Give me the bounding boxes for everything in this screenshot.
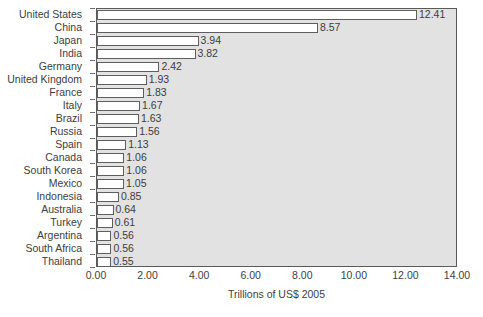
- category-label: Argentina: [37, 229, 82, 241]
- category-tick: [90, 189, 95, 190]
- category-tick: [90, 202, 95, 203]
- category-label: Mexico: [49, 177, 82, 189]
- value-tick-label: 8.00: [292, 269, 312, 281]
- category-label: Russia: [50, 125, 82, 137]
- value-tick-label: 10.00: [341, 269, 367, 281]
- bar-value-label: 1.13: [128, 139, 148, 150]
- category-label: United States: [19, 8, 82, 20]
- category-tick: [90, 228, 95, 229]
- category-tick: [90, 86, 95, 87]
- bar-value-label: 0.56: [113, 243, 133, 254]
- bar: [97, 257, 111, 267]
- bar-value-label: 12.41: [419, 9, 445, 20]
- category-tick: [90, 73, 95, 74]
- bar: [97, 127, 137, 137]
- category-label: Canada: [45, 151, 82, 163]
- value-tick-label: 0.00: [86, 269, 106, 281]
- category-label: Thailand: [42, 255, 82, 267]
- bar-value-label: 3.94: [201, 35, 221, 46]
- category-tick: [90, 34, 95, 35]
- value-tick-label: 12.00: [392, 269, 418, 281]
- category-tick: [90, 112, 95, 113]
- bar-value-label: 2.42: [161, 61, 181, 72]
- value-tick-label: 2.00: [137, 269, 157, 281]
- category-label: Indonesia: [36, 190, 82, 202]
- bar: [97, 140, 126, 150]
- category-label: Germany: [39, 60, 82, 72]
- category-label: Brazil: [56, 112, 82, 124]
- category-label: Italy: [63, 99, 82, 111]
- category-label: Japan: [53, 34, 82, 46]
- category-tick: [90, 163, 95, 164]
- category-tick: [90, 60, 95, 61]
- category-tick: [90, 267, 95, 268]
- bar-value-label: 0.61: [115, 217, 135, 228]
- bar: [97, 192, 119, 202]
- category-label: India: [59, 47, 82, 59]
- category-tick: [90, 254, 95, 255]
- category-tick: [90, 125, 95, 126]
- category-label: Spain: [55, 138, 82, 150]
- bar: [97, 23, 318, 33]
- bar-value-label: 1.67: [142, 100, 162, 111]
- bar: [97, 205, 114, 215]
- bar-value-label: 0.56: [113, 230, 133, 241]
- category-tick: [90, 138, 95, 139]
- bar: [97, 49, 196, 59]
- value-tick-label: 6.00: [240, 269, 260, 281]
- bar-value-label: 1.93: [149, 74, 169, 85]
- category-label: France: [49, 86, 82, 98]
- value-axis-title: Trillions of US$ 2005: [96, 288, 457, 300]
- bar: [97, 62, 159, 72]
- category-tick: [90, 99, 95, 100]
- bar-value-label: 1.06: [126, 152, 146, 163]
- bar: [97, 153, 124, 163]
- value-axis: 0.002.004.006.008.0010.0012.0014.00: [96, 267, 457, 283]
- bar: [97, 101, 140, 111]
- category-label: Turkey: [50, 216, 82, 228]
- category-label: Australia: [41, 203, 82, 215]
- bar-value-label: 1.63: [141, 113, 161, 124]
- bar: [97, 218, 113, 228]
- bar: [97, 231, 111, 241]
- bar: [97, 88, 144, 98]
- category-label: United Kingdom: [7, 73, 82, 85]
- bar-value-label: 1.06: [126, 165, 146, 176]
- category-tick: [90, 176, 95, 177]
- category-tick: [90, 47, 95, 48]
- category-tick: [90, 241, 95, 242]
- plot-area: [96, 8, 457, 267]
- value-tick-label: 14.00: [444, 269, 470, 281]
- bar-value-label: 1.56: [139, 126, 159, 137]
- category-axis: United StatesChinaJapanIndiaGermanyUnite…: [0, 8, 86, 267]
- bar: [97, 36, 199, 46]
- bar-value-label: 0.85: [121, 191, 141, 202]
- bar-value-label: 8.57: [320, 22, 340, 33]
- gdp-bar-chart: United StatesChinaJapanIndiaGermanyUnite…: [0, 0, 483, 317]
- bar: [97, 166, 124, 176]
- bar: [97, 114, 139, 124]
- category-label: China: [55, 21, 82, 33]
- bar-value-label: 1.05: [126, 178, 146, 189]
- category-label: South Africa: [25, 242, 82, 254]
- bar-value-label: 1.83: [146, 87, 166, 98]
- bar: [97, 179, 124, 189]
- category-tick: [90, 215, 95, 216]
- category-tick: [90, 21, 95, 22]
- category-tick: [90, 150, 95, 151]
- bar: [97, 10, 417, 20]
- value-tick-label: 4.00: [189, 269, 209, 281]
- category-tick: [90, 8, 95, 9]
- bar: [97, 244, 111, 254]
- category-label: South Korea: [24, 164, 82, 176]
- bar-value-label: 0.55: [113, 256, 133, 267]
- bar: [97, 75, 147, 85]
- bar-value-label: 3.82: [198, 48, 218, 59]
- bar-value-label: 0.64: [116, 204, 136, 215]
